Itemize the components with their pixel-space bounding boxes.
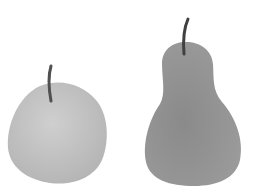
fruit-illustration (0, 0, 260, 196)
apple (8, 66, 107, 184)
pear-body (145, 42, 241, 186)
apple-body (8, 82, 107, 183)
pear (145, 19, 241, 186)
